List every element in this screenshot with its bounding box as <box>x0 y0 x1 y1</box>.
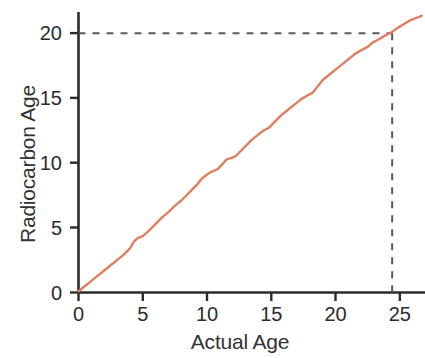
y-tick-label-0: 0 <box>28 282 62 305</box>
x-tick-label-10: 10 <box>190 303 224 326</box>
x-tick-label-15: 15 <box>254 303 288 326</box>
y-tick-label-20: 20 <box>28 22 62 45</box>
x-axis-title: Actual Age <box>155 330 325 354</box>
x-tick-label-0: 0 <box>62 303 96 326</box>
x-tick-label-25: 25 <box>383 303 417 326</box>
calibration-curve <box>79 16 422 291</box>
radiocarbon-calibration-chart: 0 5 10 15 20 0 5 10 15 20 25 Radiocarbon… <box>0 0 425 358</box>
x-tick-label-20: 20 <box>319 303 353 326</box>
y-axis-title: Radiocarbon Age <box>16 64 40 264</box>
x-tick-label-5: 5 <box>126 303 160 326</box>
